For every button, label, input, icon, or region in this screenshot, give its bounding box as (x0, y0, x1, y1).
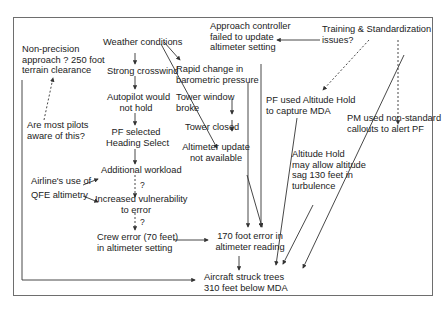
node-workload: Additional workload (101, 165, 182, 176)
node-airline-use: Airline's use of (31, 176, 91, 187)
node-rapid-change: Rapid change in barometric pressure (176, 64, 259, 85)
node-tower-window: Tower window broke (176, 92, 234, 113)
node-error-170: 170 foot error in altimeter reading (210, 231, 290, 252)
node-autopilot: Autopilot would not hold (107, 92, 165, 113)
node-pm-callouts: PM used non-standard callouts to alert P… (347, 113, 441, 134)
node-tower-closed: Tower closed (185, 122, 239, 133)
node-pilots-aware: Are most pilots aware of this? (27, 120, 88, 141)
node-heading-select: PF selected Heading Select (106, 127, 166, 148)
question-mark: ? (140, 217, 145, 227)
node-crew-error: Crew error (70 feet) in altimeter settin… (97, 232, 178, 253)
node-vulnerability: Increased vulnerability to error (95, 194, 177, 215)
node-struck-trees: Aircraft struck trees 310 feet below MDA (204, 272, 288, 293)
node-altimeter-update: Altimeter update not available (178, 142, 254, 163)
node-alt-hold-sag: Altitude Hold may allow altitude sag 130… (292, 149, 366, 191)
arrow-pilots-nonprecision (44, 78, 53, 120)
node-weather: Weather conditions (103, 37, 182, 48)
question-mark: ? (140, 180, 145, 190)
node-approach-controller: Approach controller failed to update alt… (210, 21, 291, 53)
node-training: Training & Standardization issues? (322, 24, 431, 45)
node-qfe: QFE altimetry (31, 190, 88, 201)
arrow-training-pf (323, 40, 369, 90)
node-pf-alt-hold: PF used Altitude Hold to capture MDA (266, 95, 355, 116)
node-non-precision: Non-precision approach ? 250 foot terrai… (22, 44, 105, 76)
arrow-update-170 (247, 175, 262, 227)
node-crosswind: Strong crosswind (107, 66, 178, 77)
